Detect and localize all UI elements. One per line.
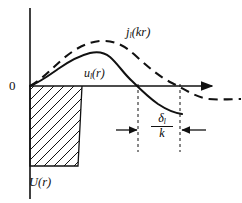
scattered-wave-curve xyxy=(30,52,182,114)
phase-shift-numerator: δl xyxy=(148,112,176,126)
scattered-wave-label-args: (r) xyxy=(92,66,105,80)
free-wave-label-args: (kr) xyxy=(132,25,151,39)
potential-label: U(r) xyxy=(29,176,51,189)
potential-label-base: U xyxy=(29,175,38,189)
figure-canvas xyxy=(0,0,242,203)
free-wave-label: jl(kr) xyxy=(126,26,150,40)
origin-label: 0 xyxy=(9,79,16,92)
phase-shift-denominator: k xyxy=(148,127,176,141)
phase-shift-label: δl k xyxy=(148,112,176,141)
phase-shift-delta-sub: l xyxy=(164,117,166,126)
scattering-phase-shift-figure: 0 jl(kr) ul(r) U(r) δl k xyxy=(0,0,242,203)
potential-label-args: (r) xyxy=(38,175,51,189)
free-wave-curve xyxy=(30,41,241,100)
scattered-wave-label: ul(r) xyxy=(84,67,105,81)
